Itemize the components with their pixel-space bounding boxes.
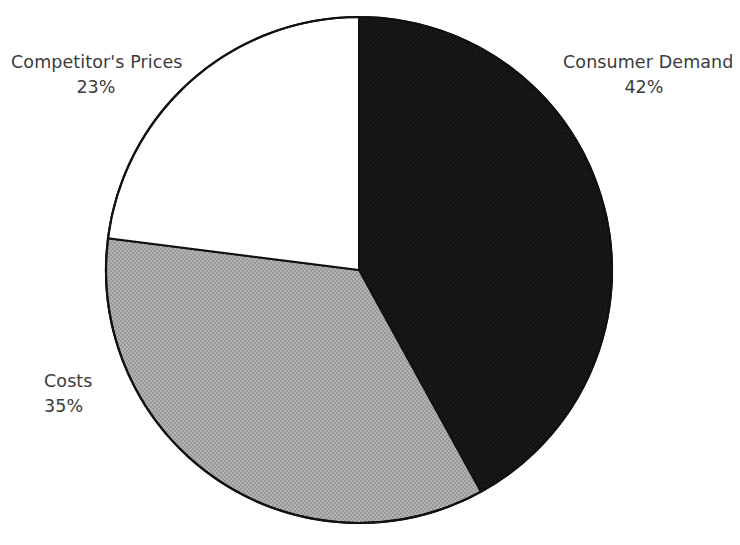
slice-label-costs: Costs 35% <box>44 369 164 419</box>
slice-label-competitors-prices: Competitor's Prices 23% <box>11 50 181 100</box>
pie-chart-figure: Competitor's Prices 23% Consumer Demand … <box>0 0 740 545</box>
slice-label-value: 23% <box>11 75 181 100</box>
slice-label-name: Competitor's Prices <box>11 50 181 75</box>
slice-label-consumer-demand: Consumer Demand 42% <box>563 50 725 100</box>
slice-label-value: 42% <box>563 75 725 100</box>
pie-slices-group <box>106 17 612 523</box>
slice-label-name: Costs <box>44 369 164 394</box>
slice-label-value: 35% <box>44 394 164 419</box>
slice-label-name: Consumer Demand <box>563 50 725 75</box>
